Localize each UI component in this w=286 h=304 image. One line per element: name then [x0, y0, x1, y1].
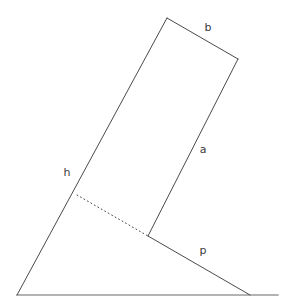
- geometry-figure: b a h p: [0, 0, 286, 304]
- rect-edge-a: [148, 59, 238, 236]
- label-p: p: [200, 244, 207, 257]
- rect-edge-dotted-base: [77, 195, 148, 236]
- hypotenuse-line-h: [17, 18, 167, 295]
- geometry-diagram-canvas: b a h p: [0, 0, 286, 304]
- label-a: a: [200, 143, 207, 156]
- label-b: b: [205, 21, 212, 34]
- label-h: h: [64, 166, 71, 179]
- rect-edge-b: [167, 18, 238, 59]
